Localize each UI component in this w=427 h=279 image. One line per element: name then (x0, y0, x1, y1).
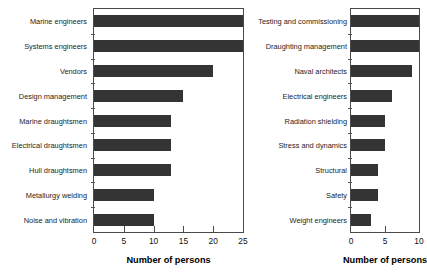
y-axis-tick (91, 133, 95, 134)
bar (94, 115, 171, 127)
category-label: Metallurgy welding (26, 190, 87, 199)
category-label: Weight engineers (290, 215, 347, 224)
bar (94, 40, 243, 52)
y-axis-tick (91, 108, 95, 109)
bar (94, 189, 154, 201)
bar (351, 15, 419, 27)
x-axis-tick-label: 25 (238, 236, 247, 246)
bar (351, 65, 412, 77)
y-axis-tick (91, 158, 95, 159)
x-axis-tick (213, 226, 214, 232)
bar (351, 164, 378, 176)
category-label: Naval architects (294, 66, 347, 75)
category-label: Stress and dynamics (278, 141, 347, 150)
category-label: Design management (19, 91, 87, 100)
category-label: Radiation shielding (285, 116, 347, 125)
category-label: Testing and commissioning (258, 17, 347, 26)
plot-area-left (93, 8, 244, 233)
x-axis-tick (385, 226, 386, 232)
category-label: Marine draughtsmen (19, 116, 87, 125)
category-label: Systems engineers (24, 42, 87, 51)
category-label: Electrical engineers (283, 91, 348, 100)
bar (351, 189, 378, 201)
bar (351, 90, 392, 102)
x-axis-tick-label: 5 (121, 236, 126, 246)
x-axis-tick-label: 0 (349, 236, 354, 246)
y-axis-tick (348, 182, 352, 183)
x-axis-tick-label: 20 (209, 236, 218, 246)
y-axis-tick (91, 59, 95, 60)
chart-panel-right: Testing and commissioningDraughting mana… (256, 0, 424, 279)
category-label: Vendors (60, 66, 87, 75)
bar (94, 65, 213, 77)
x-axis-tick-label: 10 (414, 236, 423, 246)
y-axis-tick (348, 34, 352, 35)
category-label: Draughting management (266, 42, 347, 51)
y-axis-tick (91, 34, 95, 35)
x-axis-tick (154, 226, 155, 232)
y-axis-tick (348, 158, 352, 159)
category-label: Noise and vibration (24, 215, 87, 224)
plot-area-right (350, 8, 420, 233)
x-axis-title-right: Number of persons (343, 255, 427, 265)
y-axis-tick (91, 83, 95, 84)
y-axis-tick (348, 83, 352, 84)
y-axis-tick (91, 207, 95, 208)
bar (351, 115, 385, 127)
bar (94, 15, 243, 27)
y-axis-tick (348, 207, 352, 208)
y-axis-tick (348, 133, 352, 134)
x-axis-title-left: Number of persons (126, 255, 210, 265)
x-axis-tick-label: 10 (149, 236, 158, 246)
bar (351, 40, 419, 52)
y-axis-tick (348, 108, 352, 109)
x-axis-tick (183, 226, 184, 232)
x-axis-tick-label: 15 (179, 236, 188, 246)
bar (94, 90, 183, 102)
category-label: Electrical draughtsmen (12, 141, 87, 150)
x-axis-tick-label: 5 (383, 236, 388, 246)
y-axis-tick (91, 182, 95, 183)
category-label: Safety (326, 190, 347, 199)
bar (351, 139, 385, 151)
x-axis-tick-label: 0 (92, 236, 97, 246)
chart-panel-left: Marine engineersSystems engineersVendors… (0, 0, 256, 279)
bar (351, 214, 371, 226)
bar (94, 214, 154, 226)
category-label: Structural (315, 166, 347, 175)
bar (94, 164, 171, 176)
y-axis-tick (348, 59, 352, 60)
x-axis-tick (124, 226, 125, 232)
bar (94, 139, 171, 151)
category-label: Hull draughtsmen (29, 166, 87, 175)
category-label: Marine engineers (30, 17, 87, 26)
